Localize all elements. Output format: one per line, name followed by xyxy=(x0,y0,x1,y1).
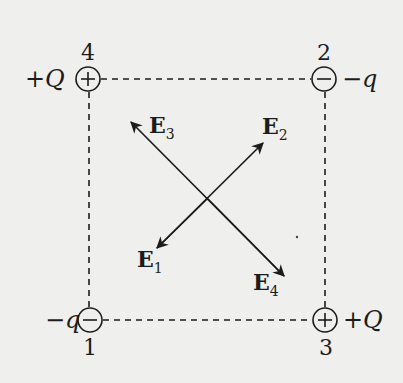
charge-value: −q xyxy=(45,306,80,334)
charge-3: 3 +Q xyxy=(313,306,383,360)
e1-arrow xyxy=(157,198,208,248)
charge-index: 4 xyxy=(81,40,95,65)
charge-index: 1 xyxy=(83,335,97,360)
e1-label: E1 xyxy=(137,246,163,276)
charge-4: 4 +Q xyxy=(25,40,100,93)
charge-1: 1 −q xyxy=(45,306,102,360)
charge-index: 2 xyxy=(317,40,331,65)
e3-label: E3 xyxy=(149,112,175,142)
stray-dot xyxy=(296,236,298,238)
charge-value: −q xyxy=(342,65,377,93)
charge-square-diagram: 4 +Q 2 −q 1 −q 3 +Q E3 E2 E1 E4 xyxy=(0,0,403,383)
charge-index: 3 xyxy=(319,335,333,360)
e4-label: E4 xyxy=(253,269,279,299)
e2-label: E2 xyxy=(262,113,288,143)
e4-arrow xyxy=(208,199,284,276)
charge-value: +Q xyxy=(25,65,65,93)
charge-2: 2 −q xyxy=(312,40,377,93)
charge-value: +Q xyxy=(343,306,383,334)
